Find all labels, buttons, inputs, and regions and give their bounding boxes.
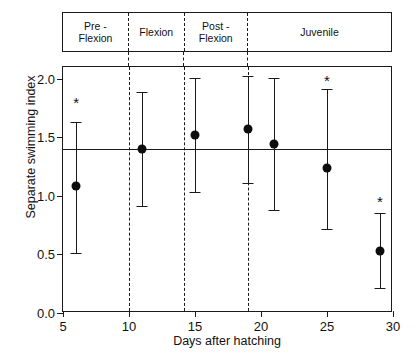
stage-divider-2 — [184, 67, 185, 311]
y-tick-label: 2.0 — [37, 71, 55, 86]
stage-band: Pre - FlexionFlexionPost - FlexionJuveni… — [62, 12, 392, 52]
error-bar-cap-lower — [71, 253, 82, 254]
stage-divider-stub-1 — [128, 52, 129, 66]
stage-divider-stub-2 — [183, 52, 184, 66]
data-point — [138, 145, 147, 154]
data-point — [323, 163, 332, 172]
significance-asterisk: * — [73, 95, 79, 110]
stage-cell-2: Flexion — [128, 13, 184, 51]
y-tick — [57, 79, 63, 80]
stage-label: Juvenile — [300, 26, 339, 38]
data-point — [270, 140, 279, 149]
x-tick — [63, 311, 64, 317]
data-point — [72, 182, 81, 191]
y-tick — [57, 137, 63, 138]
error-bar-cap-upper — [374, 213, 385, 214]
x-axis-title: Days after hatching — [62, 334, 392, 348]
stage-label: Pre - Flexion — [79, 20, 113, 45]
reference-line — [63, 149, 391, 150]
plot-frame: 0.00.51.01.52.0 51015202530 *** — [62, 66, 392, 312]
error-bar-cap-upper — [322, 89, 333, 90]
error-bar-cap-lower — [322, 229, 333, 230]
error-bar-cap-upper — [242, 76, 253, 77]
y-tick-label: 0.0 — [37, 306, 55, 321]
error-bar-cap-upper — [269, 78, 280, 79]
stage-cell-4: Juvenile — [247, 13, 391, 51]
error-bar-cap-lower — [269, 210, 280, 211]
y-axis-title: Separate swimming index — [24, 24, 38, 270]
x-tick-label: 10 — [122, 319, 136, 334]
x-tick — [261, 311, 262, 317]
error-bar — [327, 89, 328, 228]
error-bar-cap-upper — [137, 92, 148, 93]
y-tick — [57, 196, 63, 197]
x-tick — [195, 311, 196, 317]
x-tick-label: 15 — [188, 319, 202, 334]
stage-cell-1: Pre - Flexion — [63, 13, 128, 51]
error-bar-cap-lower — [242, 183, 253, 184]
significance-asterisk: * — [324, 72, 330, 87]
error-bar-cap-lower — [137, 206, 148, 207]
stage-cell-3: Post - Flexion — [184, 13, 247, 51]
stage-label: Flexion — [139, 26, 173, 38]
data-point — [375, 246, 384, 255]
data-point — [191, 130, 200, 139]
y-tick-label: 0.5 — [37, 247, 55, 262]
x-tick-label: 30 — [386, 319, 400, 334]
x-tick — [393, 311, 394, 317]
x-tick-label: 20 — [254, 319, 268, 334]
y-tick-label: 1.0 — [37, 188, 55, 203]
plot-area: 0.00.51.01.52.0 51015202530 *** — [63, 67, 391, 311]
error-bar-cap-lower — [374, 288, 385, 289]
y-tick — [57, 254, 63, 255]
figure-root: Pre - FlexionFlexionPost - FlexionJuveni… — [0, 0, 419, 358]
significance-asterisk: * — [377, 193, 383, 208]
x-tick — [327, 311, 328, 317]
stage-label: Post - Flexion — [199, 20, 233, 45]
error-bar-cap-lower — [190, 192, 201, 193]
stage-divider-1 — [129, 67, 130, 311]
error-bar-cap-upper — [190, 78, 201, 79]
data-point — [243, 125, 252, 134]
x-tick-label: 25 — [320, 319, 334, 334]
y-tick-label: 1.5 — [37, 130, 55, 145]
x-tick-label: 5 — [59, 319, 66, 334]
error-bar-cap-upper — [71, 122, 82, 123]
stage-divider-stub-3 — [247, 52, 248, 66]
x-tick — [129, 311, 130, 317]
